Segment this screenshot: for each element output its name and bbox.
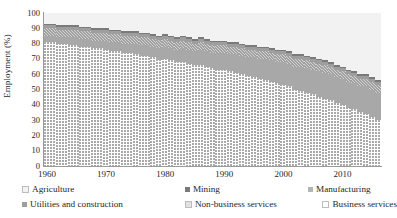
bar-segment [375,81,381,85]
legend-label: Agriculture [32,183,74,196]
y-tick-label: 40 [14,100,40,109]
y-axis-tick-labels: 0102030405060708090100 [10,13,40,166]
chart-legend: AgricultureMiningManufacturing Utilities… [22,183,384,215]
legend-item[interactable]: Manufacturing [308,183,371,196]
legend-label: Non-business services [195,198,277,211]
legend-row-1: AgricultureMiningManufacturing [22,183,384,198]
x-tick-label: 1970 [86,169,126,179]
legend-item[interactable]: Business services [322,198,397,211]
y-tick-label: 30 [14,116,40,125]
y-tick-label: 80 [14,39,40,48]
y-tick-label: 100 [14,9,40,18]
legend-label: Mining [193,183,220,196]
legend-item[interactable]: Utilities and construction [22,198,123,211]
bar-segment [375,120,381,166]
legend-swatch-icon [322,201,329,208]
legend-item[interactable]: Agriculture [22,183,74,196]
legend-row-2: Utilities and constructionNon-business s… [22,198,384,213]
legend-swatch-icon [185,187,190,192]
x-tick-label: 2000 [263,169,303,179]
bar-segment [375,13,381,80]
legend-item[interactable]: Non-business services [185,198,277,211]
legend-swatch-icon [185,201,192,208]
y-tick-label: 20 [14,131,40,140]
y-tick-label: 90 [14,24,40,33]
stacked-bar-column [375,13,381,166]
x-tick-label: 2010 [323,169,363,179]
legend-label: Manufacturing [316,183,371,196]
y-tick-label: 70 [14,54,40,63]
plot-area [44,13,381,166]
x-tick-label: 1990 [204,169,244,179]
y-tick-label: 50 [14,85,40,94]
x-tick-label: 1960 [27,169,67,179]
bar-segment [375,92,381,120]
legend-swatch-icon [308,187,313,192]
legend-swatch-icon [22,202,27,207]
legend-swatch-icon [22,186,29,193]
y-tick-label: 10 [14,146,40,155]
x-axis-line [43,166,382,167]
y-tick-label: 60 [14,70,40,79]
legend-label: Business services [332,198,397,211]
bar-segment [375,84,381,92]
plot-frame [44,13,381,166]
legend-label: Utilities and construction [30,198,123,211]
legend-item[interactable]: Mining [185,183,220,196]
x-tick-label: 1980 [145,169,185,179]
